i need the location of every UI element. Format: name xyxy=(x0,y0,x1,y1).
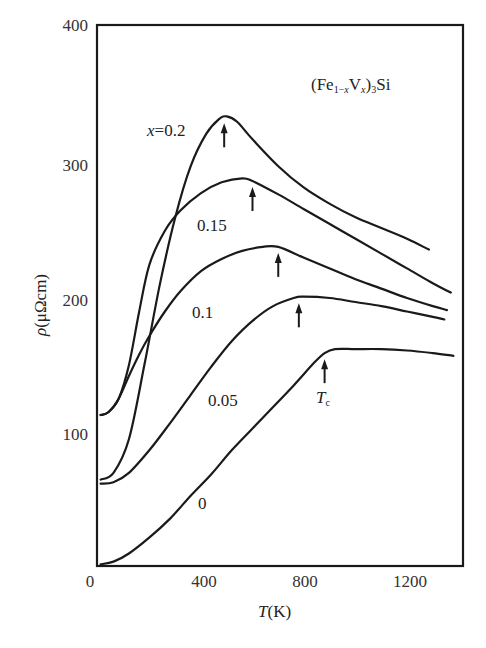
tc-arrowhead-icon xyxy=(295,303,302,313)
curve-x=0.15 xyxy=(101,178,451,415)
x-axis-label: T(K) xyxy=(258,602,291,621)
curve-x=0.1 xyxy=(101,246,447,415)
y-tick-400: 400 xyxy=(63,16,89,35)
curves-group xyxy=(101,116,454,564)
x-tick-1200: 1200 xyxy=(393,572,427,591)
chart-title: (Fe1−xVx)3Si xyxy=(311,75,391,95)
resistivity-chart: 400 300 200 100 0 400 800 1200 T(K) ρ(μΩ… xyxy=(0,0,486,648)
plot-frame xyxy=(97,25,463,566)
curve-x=0.2 xyxy=(101,116,429,479)
curve-label-0.1: 0.1 xyxy=(192,303,213,322)
tc-arrowhead-icon xyxy=(221,123,228,133)
title-part: V xyxy=(349,75,362,94)
y-axis-symbol: ρ xyxy=(31,328,50,337)
title-sub: 1− xyxy=(334,84,345,95)
y-axis-unit: (μΩcm) xyxy=(31,274,50,328)
tc-arrowhead-icon xyxy=(249,187,256,197)
y-tick-300: 300 xyxy=(63,156,89,175)
title-part: Si xyxy=(376,75,390,94)
x-tick-400: 400 xyxy=(191,572,217,591)
curve-x=0 xyxy=(101,349,454,565)
curve-label-0: 0 xyxy=(198,494,207,513)
y-axis-label: ρ(μΩcm) xyxy=(31,274,50,337)
x-tick-0: 0 xyxy=(86,572,95,591)
y-tick-200: 200 xyxy=(63,291,89,310)
tc-arrowhead-icon xyxy=(275,253,282,263)
tc-subscript: c xyxy=(325,397,330,408)
x-axis-unit: (K) xyxy=(267,602,291,621)
curve-label-0.2: x=0.2 xyxy=(146,121,185,140)
curve-label-value: =0.2 xyxy=(155,121,186,140)
curve-label-0.05: 0.05 xyxy=(208,391,238,410)
x-tick-800: 800 xyxy=(292,572,318,591)
tc-arrowhead-icon xyxy=(321,359,328,369)
tc-label: Tc xyxy=(316,388,330,408)
curve-label-0.15: 0.15 xyxy=(197,216,227,235)
y-tick-100: 100 xyxy=(63,425,89,444)
title-part: (Fe xyxy=(311,75,334,94)
